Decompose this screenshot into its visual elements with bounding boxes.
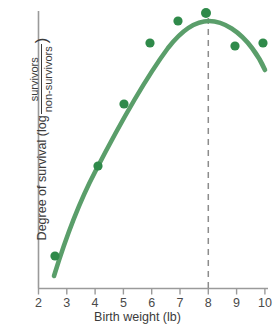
data-point bbox=[201, 8, 211, 18]
x-tick-label-5: 5 bbox=[111, 296, 135, 310]
data-points bbox=[50, 8, 267, 261]
fraction-numerator: survivors bbox=[29, 55, 40, 103]
x-tick-label-10: 10 bbox=[253, 296, 275, 310]
x-tick-label-9: 9 bbox=[225, 296, 249, 310]
data-point bbox=[258, 38, 267, 47]
x-tick-label-6: 6 bbox=[140, 296, 164, 310]
chart-figure: 2 3 4 5 6 7 8 9 10 Birth weight (lb) Deg… bbox=[0, 0, 275, 334]
x-tick-label-3: 3 bbox=[55, 296, 79, 310]
y-axis-title-suffix: ) bbox=[35, 38, 49, 44]
data-point bbox=[173, 16, 182, 25]
data-point bbox=[119, 99, 128, 108]
x-tick-label-8: 8 bbox=[196, 296, 220, 310]
x-tick-label-4: 4 bbox=[83, 296, 107, 310]
x-tick-label-2: 2 bbox=[27, 296, 51, 310]
x-tick-marks bbox=[39, 289, 265, 295]
data-point bbox=[230, 41, 239, 50]
x-axis-title: Birth weight (lb) bbox=[0, 310, 275, 324]
y-axis-title-prefix: Degree of survival (log bbox=[35, 115, 49, 240]
y-axis-title: Degree of survival (log survivors non-su… bbox=[29, 13, 55, 265]
fitted-curve bbox=[54, 21, 265, 276]
data-point bbox=[93, 161, 102, 170]
fraction-denominator: non-survivors bbox=[43, 44, 54, 114]
y-axis-title-fraction: survivors non-survivors bbox=[29, 44, 54, 114]
x-tick-label-7: 7 bbox=[168, 296, 192, 310]
data-point bbox=[145, 38, 154, 47]
